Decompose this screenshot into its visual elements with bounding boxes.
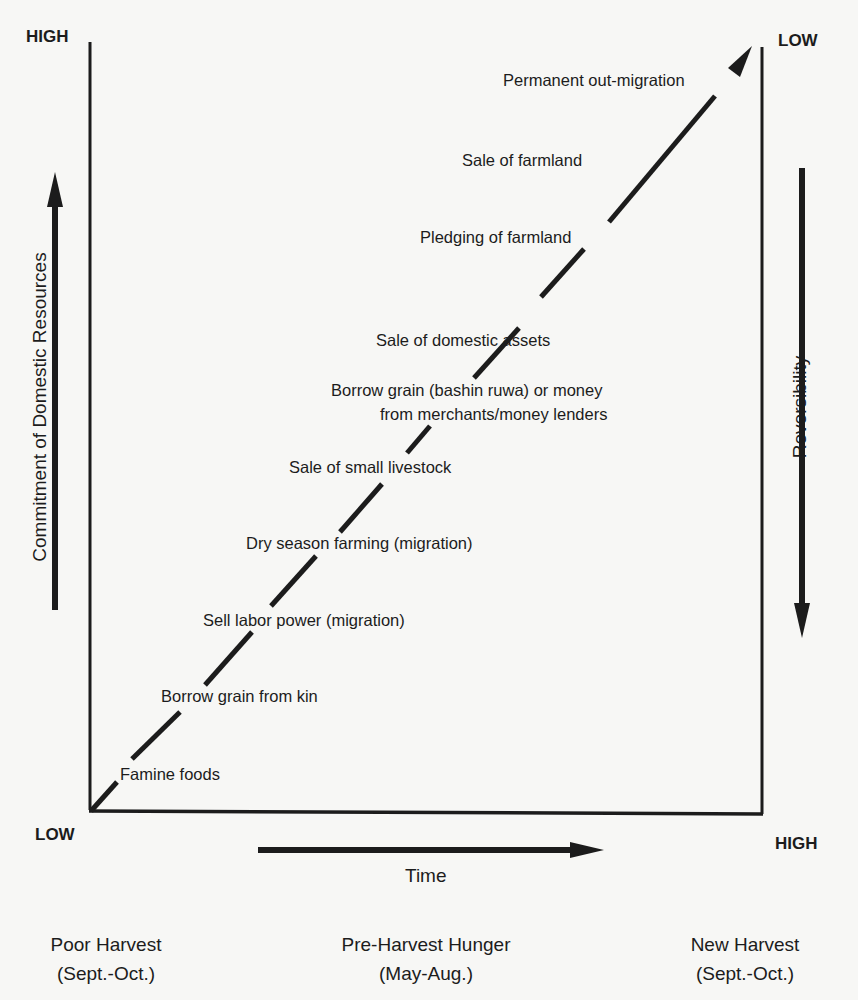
stage-borrow-grain-kin: Borrow grain from kin	[161, 688, 318, 705]
stage-borrow-grain-merchants-line2: from merchants/money lenders	[380, 406, 607, 423]
stage-sale-domestic-assets: Sale of domestic assets	[376, 332, 550, 349]
stage-sale-small-livestock: Sale of small livestock	[289, 459, 451, 476]
period-name: New Harvest	[670, 930, 820, 959]
top-left-high-label: HIGH	[26, 28, 69, 45]
diagram-graphics	[0, 0, 858, 1000]
arrow-right-icon	[570, 842, 604, 858]
bottom-left-low-label: LOW	[35, 826, 75, 843]
period-pre-harvest-hunger: Pre-Harvest Hunger (May-Aug.)	[326, 930, 526, 989]
period-name: Poor Harvest	[36, 930, 176, 959]
top-right-low-label: LOW	[778, 32, 818, 49]
commitment-axis-title: Commitment of Domestic Resources	[29, 197, 51, 617]
stage-sale-farmland: Sale of farmland	[462, 152, 582, 169]
stage-famine-foods: Famine foods	[120, 766, 220, 783]
arrow-down-icon	[794, 603, 810, 638]
period-poor-harvest: Poor Harvest (Sept.-Oct.)	[36, 930, 176, 989]
bottom-right-high-label: HIGH	[775, 835, 818, 852]
period-months: (May-Aug.)	[326, 959, 526, 988]
period-new-harvest: New Harvest (Sept.-Oct.)	[670, 930, 820, 989]
stage-borrow-grain-merchants-line1: Borrow grain (bashin ruwa) or money	[331, 382, 602, 399]
stage-permanent-out-migration: Permanent out-migration	[503, 72, 685, 89]
stage-sell-labor-power: Sell labor power (migration)	[203, 612, 405, 629]
stage-pledging-farmland: Pledging of farmland	[420, 229, 571, 246]
stage-dry-season-farming: Dry season farming (migration)	[246, 535, 473, 552]
time-axis-title: Time	[405, 866, 447, 885]
period-months: (Sept.-Oct.)	[670, 959, 820, 988]
reversibility-axis-title: Reversibility	[789, 347, 811, 467]
period-months: (Sept.-Oct.)	[36, 959, 176, 988]
bottom-frame-line	[89, 811, 763, 814]
progression-arrowhead-icon	[728, 46, 752, 77]
period-name: Pre-Harvest Hunger	[326, 930, 526, 959]
